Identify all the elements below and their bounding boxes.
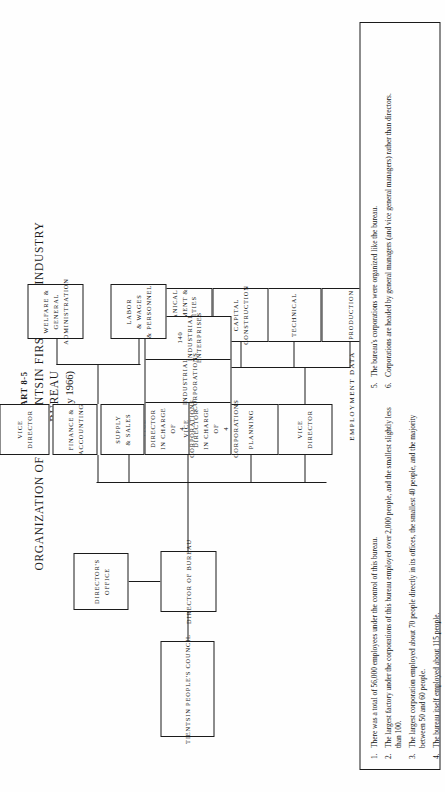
connector-vdright-to-subspine <box>97 364 98 404</box>
box-label: PLANNING <box>245 410 255 449</box>
box-label-line-1: LABOR <box>123 299 133 325</box>
box-label: TIENTSIN PEOPLE'S COUNCIL <box>182 634 192 744</box>
page-title: ORGANIZATION OF THE TIENTSIN FIRST LIGHT… <box>31 0 61 792</box>
box-tientsin-peoples-council[interactable]: TIENTSIN PEOPLE'S COUNCIL <box>160 641 214 737</box>
box-label-line-3: & PERSONNEL <box>143 285 153 338</box>
note-number: 3. <box>407 748 428 759</box>
connector-subspine-to-capital <box>240 342 241 368</box>
box-label-line-3: ADMINISTRATION <box>60 278 70 345</box>
note-text: The bureau itself employed about 115 peo… <box>431 404 442 748</box>
connector-subspine-to-welfare <box>56 339 57 365</box>
employment-note: 2. The largest factory under the corpora… <box>383 404 404 759</box>
chart-date: (May 1966) <box>63 0 74 792</box>
box-label-line-2: GENERAL <box>50 294 60 330</box>
box-supply-and-sales[interactable]: SUPPLY & SALES <box>100 404 144 455</box>
chart-title-block: CHART 8-5 ORGANIZATION OF THE TIENTSIN F… <box>18 0 74 792</box>
employment-data-panel: 1. There was a total of 56,000 employees… <box>359 22 440 770</box>
box-label-line-1: DIRECTOR'S <box>91 559 101 604</box>
box-label-line-2: & WAGES <box>133 294 143 328</box>
box-label-line-1: FINANCE & <box>65 409 75 451</box>
employment-note: 1. There was a total of 56,000 employees… <box>369 404 380 759</box>
connector-vdleft-to-subspine <box>304 367 305 404</box>
box-label-line-1: SUPPLY <box>112 415 122 443</box>
sub-spine-right <box>56 364 140 365</box>
connector-spine-to-corporations <box>187 455 188 483</box>
box-label-line-2: CONSTRUCTION <box>240 285 250 345</box>
box-label-line-1: VICE <box>294 420 304 438</box>
note-text: Corporations are headed by general manag… <box>383 33 394 377</box>
employment-note: 5. The bureau's corporations were organi… <box>369 33 380 388</box>
connector-spine-to-supply <box>128 455 129 483</box>
box-label-line-2: ACCOUNTING <box>75 404 85 455</box>
box-director-of-bureau[interactable]: DIRECTOR OF BUREAU <box>160 551 216 612</box>
employment-note: 3. The largest corporation employed abou… <box>407 404 428 759</box>
chart-stage: CHART 8-5 ORGANIZATION OF THE TIENTSIN F… <box>0 0 445 792</box>
employment-notes-column-right: 5. The bureau's corporations were organi… <box>369 33 430 388</box>
chart-number: CHART 8-5 <box>18 0 28 792</box>
box-label: 140 INDUSTRIAL ENTERPRISES <box>174 312 204 363</box>
box-industrial-corporations[interactable]: INDUSTRIAL CORPORATIONS <box>145 360 232 403</box>
chart-title-line-1: ORGANIZATION OF THE TIENTSIN FIRST LIGHT… <box>31 0 46 792</box>
box-label-line-2: DIRECTOR <box>24 410 34 449</box>
note-number: 6. <box>383 377 394 388</box>
group-divider-vertical-2 <box>145 359 230 360</box>
note-number: 1. <box>369 748 380 759</box>
box-label-line-2: DIRECTOR <box>304 410 314 449</box>
note-number: 2. <box>383 748 404 759</box>
group-divider-horizontal <box>188 403 189 454</box>
box-labor-wages-personnel[interactable]: LABOR & WAGES & PERSONNEL <box>110 284 166 339</box>
note-text: The bureau's corporations were organized… <box>369 33 380 377</box>
box-vice-director-right[interactable]: VICE DIRECTOR <box>0 404 49 455</box>
employment-notes-column-left: 1. There was a total of 56,000 employees… <box>369 404 430 759</box>
main-spine <box>96 482 326 483</box>
box-welfare-general-administration[interactable]: WELFARE & GENERAL ADMINISTRATION <box>27 284 83 339</box>
connector-spine-to-finance <box>97 455 98 483</box>
box-label-line-2: OFFICE <box>101 568 111 595</box>
connector-spine-to-vice-director-left <box>304 455 305 483</box>
note-number: 5. <box>369 377 380 388</box>
connector-subspine-to-technical <box>293 342 294 368</box>
chart-title-line-2: BUREAU <box>46 0 61 792</box>
employment-data-heading: EMPLOYMENT DATA <box>347 0 355 792</box>
employment-note: 6. Corporations are headed by general ma… <box>383 33 394 388</box>
box-vice-director-left[interactable]: VICE DIRECTOR <box>276 404 332 455</box>
connector-subspine-to-labor <box>138 339 139 365</box>
box-label-line-1: WELFARE & <box>40 290 50 334</box>
box-technical[interactable]: TECHNICAL <box>265 288 321 342</box>
employment-note: 4. The bureau itself employed about 115 … <box>431 404 442 759</box>
box-label-line-2: IN CHARGE OF <box>200 403 220 454</box>
box-directors-office[interactable]: DIRECTOR'S OFFICE <box>73 553 128 610</box>
connector-spine-to-planning <box>250 455 251 483</box>
note-number: 4. <box>431 748 442 759</box>
box-label: DIRECTOR OF BUREAU <box>183 539 193 624</box>
box-label-line-3: 4 CORPORATIONS <box>220 399 240 458</box>
box-label-line-2: IN CHARGE OF <box>157 403 177 454</box>
group-divider-vertical-1 <box>145 402 230 403</box>
note-text: The largest factory under the corporatio… <box>383 404 404 748</box>
box-label-line-1: VICE <box>14 420 24 438</box>
box-finance-and-accounting[interactable]: FINANCE & ACCOUNTING <box>52 404 97 455</box>
box-label: TECHNICAL <box>288 293 298 337</box>
note-text: There was a total of 56,000 employees un… <box>369 404 380 748</box>
box-label-line-2: & SALES <box>122 413 132 445</box>
connector-director-to-office <box>128 581 160 582</box>
note-text: The largest corporation employed about 7… <box>407 404 428 748</box>
